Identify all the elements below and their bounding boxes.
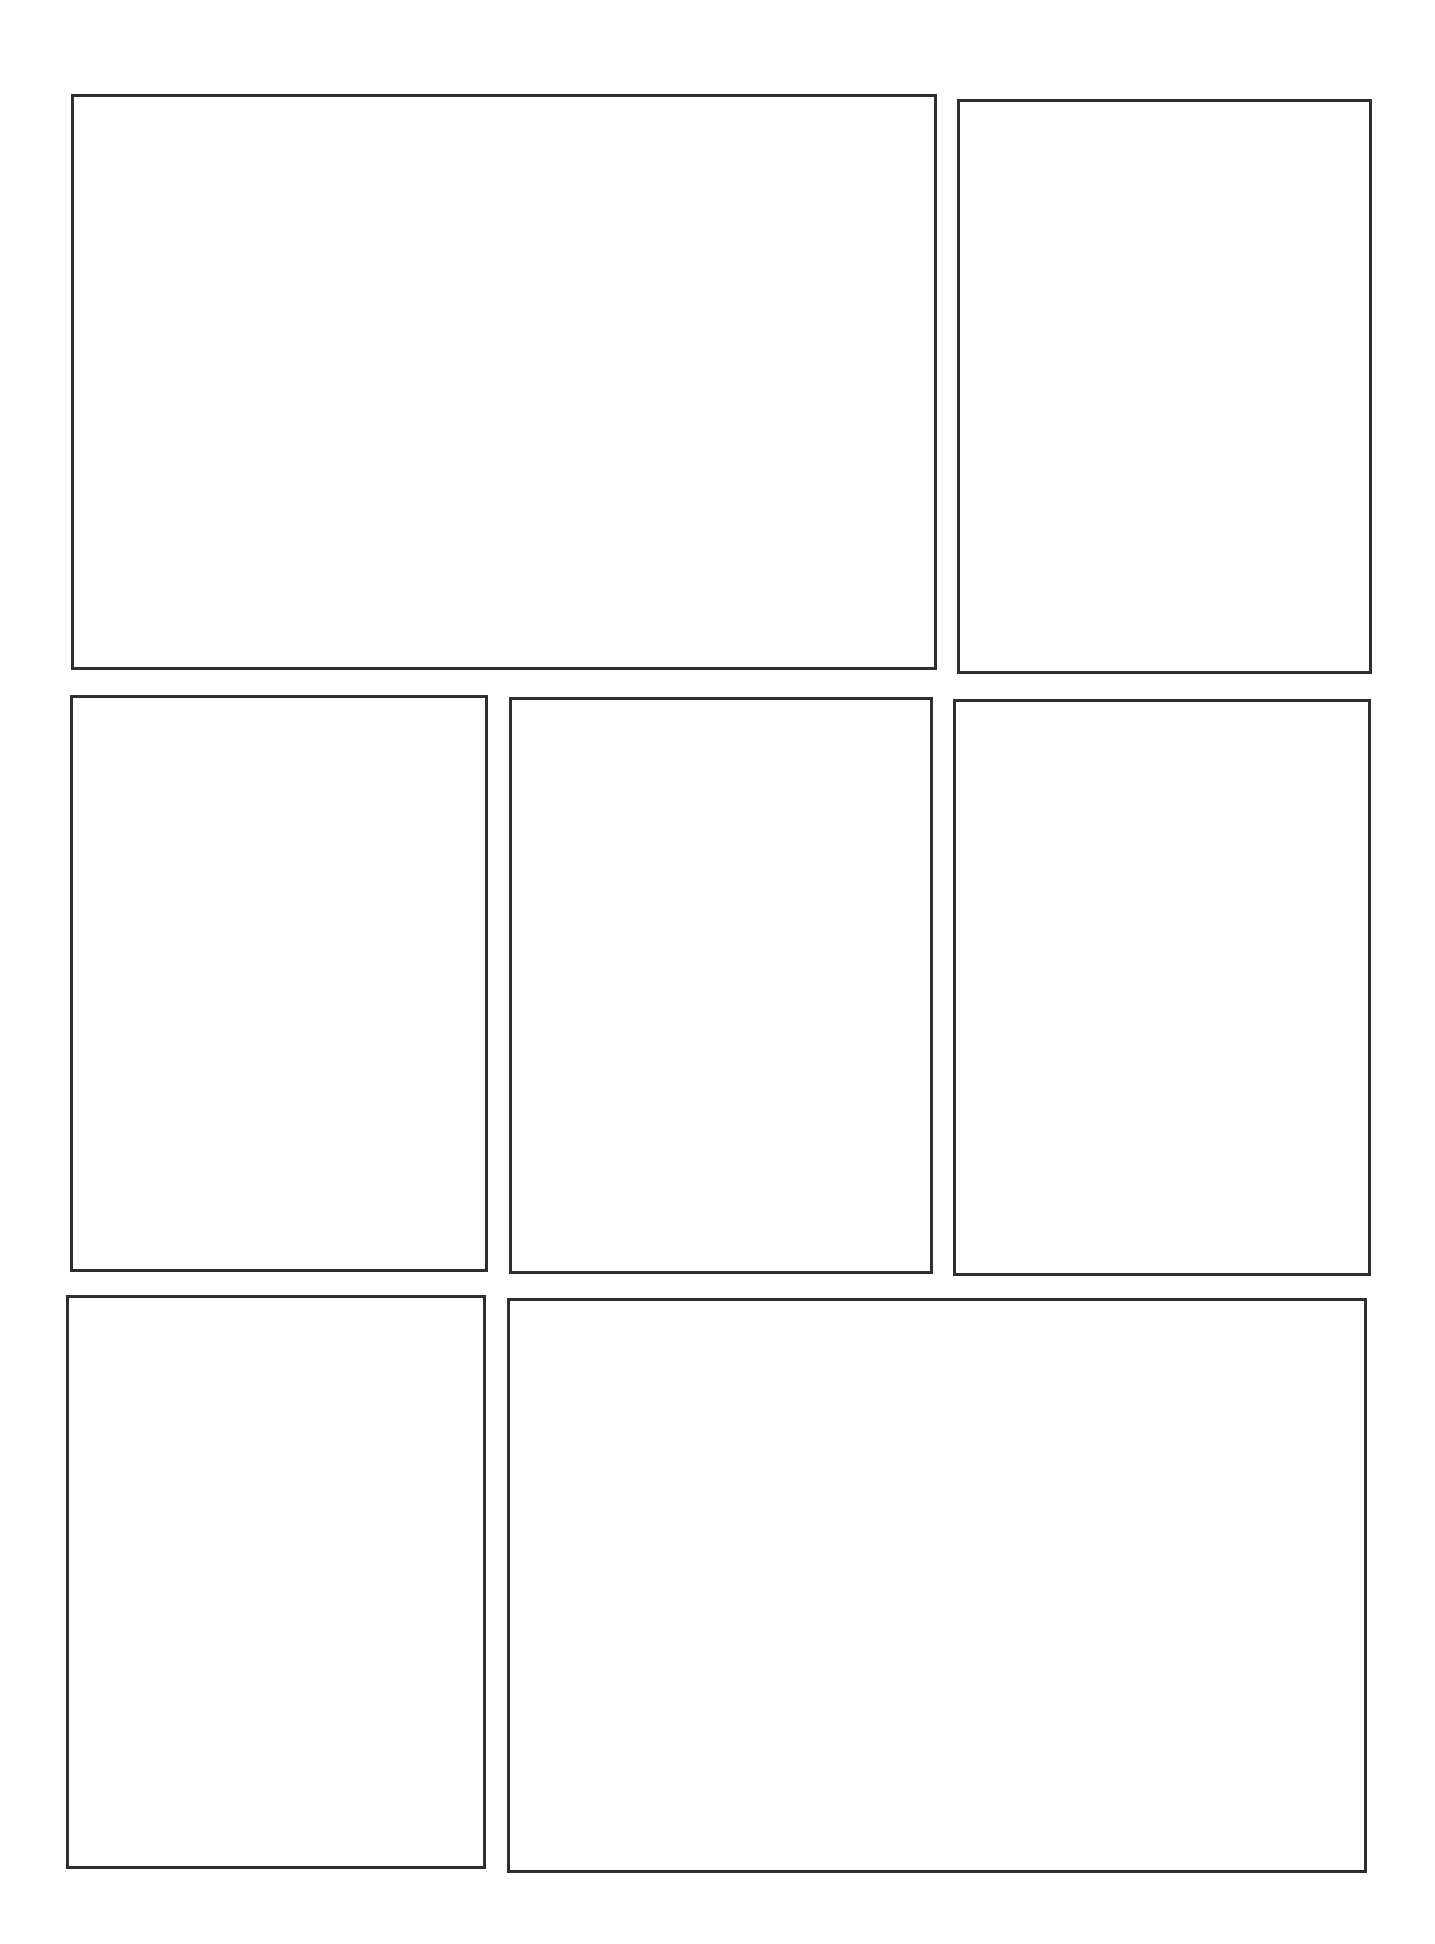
panel-4-middle-center bbox=[509, 697, 933, 1274]
panel-7-bottom-wide bbox=[507, 1298, 1367, 1873]
panel-5-middle-right bbox=[953, 699, 1371, 1276]
panel-6-bottom-left bbox=[66, 1295, 486, 1869]
panel-3-middle-left bbox=[70, 695, 488, 1272]
comic-page bbox=[0, 0, 1435, 1944]
panel-1-top-wide bbox=[71, 94, 937, 670]
panel-2-top-right bbox=[957, 99, 1372, 674]
